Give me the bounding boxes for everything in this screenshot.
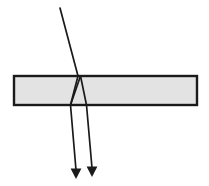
refraction-diagram — [0, 0, 209, 186]
diagram-canvas — [0, 0, 209, 186]
glass-slab — [14, 76, 197, 105]
